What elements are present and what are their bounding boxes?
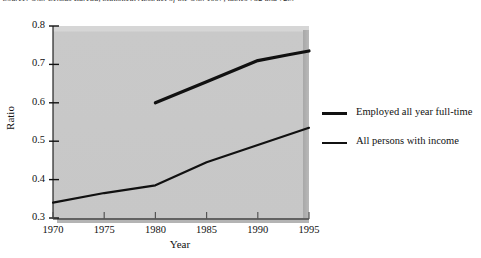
x-tick-label: 1995 [289, 224, 329, 235]
y-tick-label: 0.6 [17, 96, 45, 107]
y-tick-label: 0.3 [17, 211, 45, 222]
chart-figure: Source: U.S. Census Bureau, Statistical … [0, 0, 481, 258]
legend-line-swatch [322, 112, 347, 115]
plot-panel-shadow-right [303, 30, 309, 222]
plot-panel [53, 26, 309, 218]
y-tick-label: 0.8 [17, 19, 45, 30]
x-tick-label: 1970 [33, 224, 73, 235]
legend-line-swatch [322, 142, 347, 144]
y-tick-label: 0.5 [17, 134, 45, 145]
source-caption-text: Source: U.S. Census Bureau, Statistical … [3, 0, 294, 3]
x-tick-label: 1980 [135, 224, 175, 235]
source-caption: Source: U.S. Census Bureau, Statistical … [0, 0, 481, 9]
y-axis-label: Ratio [4, 96, 16, 140]
legend-item: All persons with income [318, 133, 480, 162]
plot-panel-shadow-bottom [57, 218, 309, 223]
x-tick-label: 1975 [84, 224, 124, 235]
legend-item: Employed all year full-time [318, 104, 480, 133]
legend-item-label: Employed all year full-time [356, 106, 472, 117]
legend-item-label: All persons with income [356, 135, 459, 146]
y-tick-label: 0.4 [17, 173, 45, 184]
y-tick-label: 0.7 [17, 57, 45, 68]
x-tick-label: 1985 [187, 224, 227, 235]
chart-legend: Employed all year full-timeAll persons w… [318, 104, 480, 162]
x-axis-label: Year [140, 238, 220, 250]
x-tick-label: 1990 [238, 224, 278, 235]
